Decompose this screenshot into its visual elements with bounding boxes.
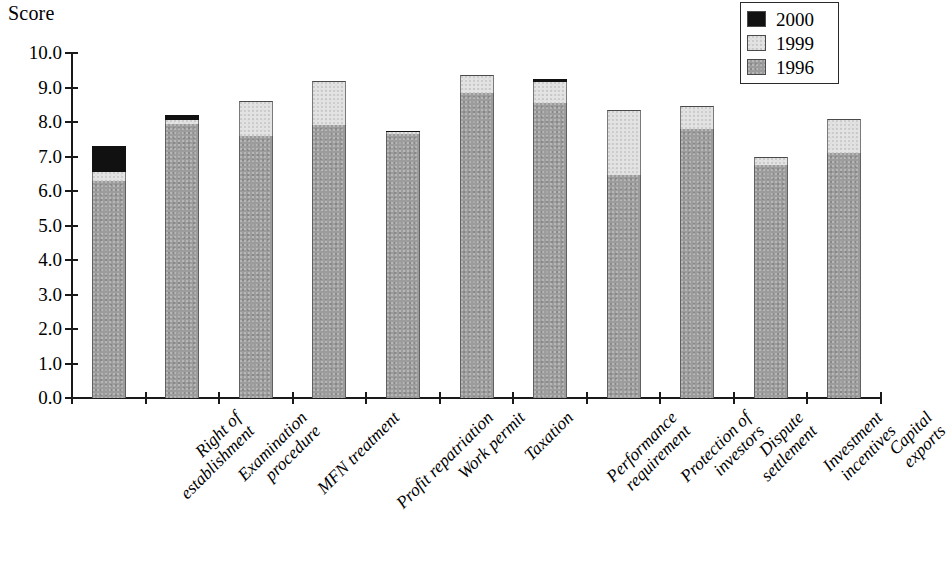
bar-stack [533,53,567,398]
bar-segment-1999 [754,157,788,166]
x-axis-label-line: MFN treatment [313,408,403,498]
bar-stack [827,53,861,398]
y-axis-tick [65,294,78,296]
legend-item: 2000 [747,7,832,31]
bar-stack [460,53,494,398]
bar-stack [386,53,420,398]
x-axis-tick [733,392,735,404]
x-axis-tick [586,392,588,404]
y-axis-tick [65,52,78,54]
x-axis-tick [659,392,661,404]
y-axis-tick-label: 7.0 [4,147,62,166]
bar-segment-1999 [386,132,420,134]
y-axis-tick-label: 4.0 [4,250,62,269]
bar-segment-2000 [92,146,126,172]
bar-segment-1996 [754,165,788,398]
bar-segment-1996 [239,136,273,398]
y-axis-tick-label: 0.0 [4,388,62,407]
y-axis-tick-label: 2.0 [4,319,62,338]
legend-item: 1999 [747,31,832,55]
x-axis-label: MFN treatment [313,408,403,498]
legend-swatch-1996 [747,59,766,75]
bar-stack [312,53,346,398]
x-axis-tick [292,392,294,404]
y-axis-tick [65,190,78,192]
y-axis-tick-label: 9.0 [4,78,62,97]
bar-stack [239,53,273,398]
y-axis-tick-label: 3.0 [4,285,62,304]
y-axis-tick [65,156,78,158]
y-axis-tick [65,225,78,227]
bar-segment-2000 [533,79,567,82]
bar-segment-1996 [533,103,567,398]
legend: 200019991996 [740,2,839,84]
bar-segment-1996 [165,124,199,398]
bar-segment-1996 [460,93,494,398]
x-axis-label-line: Taxation [520,408,576,464]
x-axis-label: Examinationprocedure [235,408,325,498]
y-axis-tick-label: 6.0 [4,181,62,200]
y-axis-tick-label: 1.0 [4,354,62,373]
x-axis-tick [806,392,808,404]
bar-segment-1996 [680,129,714,398]
bar-segment-2000 [165,115,199,120]
bar-segment-1999 [312,81,346,126]
bar-segment-1996 [827,153,861,398]
y-axis-tick [65,328,78,330]
y-axis-tick-label: 5.0 [4,216,62,235]
bar-stack [607,53,641,398]
bar-segment-1996 [607,175,641,398]
x-axis-tick [71,392,73,404]
legend-swatch-1999 [747,35,766,51]
y-axis-tick [65,259,78,261]
bar-segment-1999 [239,101,273,136]
y-axis-tick [65,121,78,123]
bar-stack [92,53,126,398]
bar-segment-1996 [92,181,126,398]
x-axis-tick [145,392,147,404]
x-axis-label: Right ofestablishment [163,408,258,503]
x-axis-tick [365,392,367,404]
x-axis-tick [880,392,882,404]
x-axis-label: Investmentincentives [819,408,899,488]
y-axis-tick-label: 10.0 [4,43,62,62]
bar-segment-1999 [680,106,714,128]
y-axis-tick-label: 8.0 [4,112,62,131]
x-axis-tick [218,392,220,404]
x-axis-label: Capitalexports [886,408,950,472]
x-axis-label: Disputesettlement [744,408,821,485]
x-axis-tick [439,392,441,404]
legend-item: 1996 [747,55,832,79]
legend-swatch-2000 [747,11,766,27]
bar-segment-1999 [92,172,126,181]
legend-label: 2000 [776,10,814,29]
bar-segment-1999 [827,119,861,154]
bar-segment-1999 [460,75,494,92]
legend-label: 1996 [776,58,814,77]
x-axis-label: Performancerequirement [603,408,694,499]
x-axis-label: Taxation [520,408,576,464]
legend-label: 1999 [776,34,814,53]
bar-segment-1999 [165,120,199,123]
y-axis-tick [65,87,78,89]
y-axis-tick [65,363,78,365]
bar-segment-2000 [386,131,420,133]
bar-segment-1999 [533,82,567,103]
bar-segment-1999 [607,110,641,176]
bar-segment-1996 [386,134,420,398]
bar-stack [754,53,788,398]
bar-segment-1996 [312,125,346,398]
x-axis-tick [512,392,514,404]
bar-stack [165,53,199,398]
bar-stack [680,53,714,398]
